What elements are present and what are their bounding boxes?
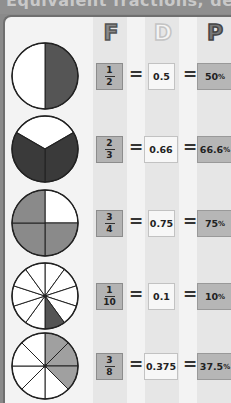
equals-sign: = xyxy=(183,137,197,157)
decimal-value: 0.66̇ xyxy=(149,144,172,155)
fraction-pie-icon xyxy=(10,188,80,258)
numerator: 1 xyxy=(105,286,115,297)
percent-box: 66.6̇% xyxy=(197,136,231,163)
title-strip: Equivalent fractions, decimals and perce… xyxy=(0,0,231,14)
decimal-value: 0.1 xyxy=(153,291,170,302)
fraction-box: 34 xyxy=(96,210,123,237)
percent-box: 37.5% xyxy=(197,353,231,380)
decimal-box: 0.66̇ xyxy=(144,136,178,163)
percent-sign: % xyxy=(218,293,225,301)
decimal-box: 0.1 xyxy=(148,283,175,310)
percent-value: 75 xyxy=(205,218,218,229)
percent-sign: % xyxy=(223,363,230,371)
decimal-value: 0.375 xyxy=(146,361,176,372)
percent-value: 50 xyxy=(205,71,218,82)
decimal-value: 0.75 xyxy=(150,218,173,229)
fraction-box: 38 xyxy=(96,353,123,380)
percent-value: 37.5 xyxy=(200,361,223,372)
numerator: 3 xyxy=(105,213,115,224)
numerator: 1 xyxy=(105,66,115,77)
denominator: 10 xyxy=(103,297,116,307)
denominator: 3 xyxy=(106,150,112,160)
conversion-row: 38=0.375=37.5% xyxy=(5,331,231,401)
fraction-pie-icon xyxy=(10,261,80,331)
equals-sign: = xyxy=(129,284,143,304)
decimal-value: 0.5 xyxy=(153,71,170,82)
fraction-box: 23 xyxy=(96,136,123,163)
page-title: Equivalent fractions, decimals and perce… xyxy=(6,0,231,10)
percent-box: 75% xyxy=(197,210,231,237)
denominator: 4 xyxy=(106,224,112,234)
numerator: 2 xyxy=(105,139,115,150)
conversion-panel: F D P 12=0.5=50%23=0.66̇=66.6̇%34=0.75=7… xyxy=(3,15,231,403)
equals-sign: = xyxy=(183,284,197,304)
fraction-pie-icon xyxy=(10,331,80,401)
equals-sign: = xyxy=(129,354,143,374)
equals-sign: = xyxy=(129,211,143,231)
percent-sign: % xyxy=(223,146,230,154)
percent-sign: % xyxy=(218,220,225,228)
fraction-box: 110 xyxy=(96,283,123,310)
equals-sign: = xyxy=(129,64,143,84)
percent-value: 10 xyxy=(205,291,218,302)
fraction-pie-icon xyxy=(10,114,80,184)
decimal-box: 0.5 xyxy=(148,63,175,90)
numerator: 3 xyxy=(105,356,115,367)
percent-sign: % xyxy=(218,73,225,81)
equals-sign: = xyxy=(183,64,197,84)
denominator: 8 xyxy=(106,367,112,377)
percent-box: 10% xyxy=(197,283,231,310)
equals-sign: = xyxy=(183,211,197,231)
conversion-row: 12=0.5=50% xyxy=(5,41,231,111)
conversion-row: 23=0.66̇=66.6̇% xyxy=(5,114,231,184)
percent-value: 66.6̇ xyxy=(200,144,223,155)
equals-sign: = xyxy=(129,137,143,157)
conversion-row: 110=0.1=10% xyxy=(5,261,231,331)
percent-box: 50% xyxy=(197,63,231,90)
equals-sign: = xyxy=(183,354,197,374)
fraction-pie-icon xyxy=(10,41,80,111)
conversion-row: 34=0.75=75% xyxy=(5,188,231,258)
decimal-box: 0.375 xyxy=(144,353,178,380)
denominator: 2 xyxy=(106,77,112,87)
decimal-box: 0.75 xyxy=(148,210,175,237)
fraction-box: 12 xyxy=(96,63,123,90)
